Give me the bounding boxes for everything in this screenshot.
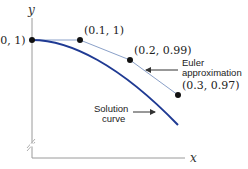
- point-3: [175, 92, 181, 98]
- axis-break-mark: [27, 139, 35, 151]
- solution-label-line2: curve: [102, 113, 125, 124]
- point-0: [29, 37, 35, 43]
- euler-diagram: y x (0, 1) (0.1, 1) (0.2, 0.99) (0.3, 0.…: [0, 0, 248, 169]
- point-1: [77, 37, 83, 43]
- point-3-label: (0.3, 0.97): [182, 79, 240, 92]
- point-0-label: (0, 1): [0, 34, 26, 47]
- euler-label-line2: approximation: [182, 67, 242, 78]
- point-2: [127, 57, 133, 63]
- x-axis-label: x: [190, 151, 197, 165]
- point-1-label: (0.1, 1): [84, 24, 124, 37]
- y-axis-label: y: [27, 3, 35, 17]
- point-2-label: (0.2, 0.99): [134, 44, 192, 57]
